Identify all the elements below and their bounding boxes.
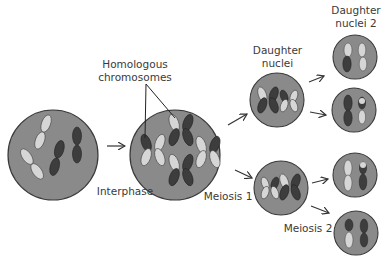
arrow-meiosis1-bottom <box>235 170 252 178</box>
label-daughter-nuclei: Daughter nuclei <box>250 44 305 70</box>
label-homologous-line2: chromosomes <box>98 71 172 84</box>
label-meiosis1: Meiosis 1 <box>202 190 254 203</box>
arrow-meiosis1-top <box>228 114 247 125</box>
daughter-nucleus-bottom <box>254 161 308 215</box>
daughter-nucleus-2c <box>333 153 377 197</box>
daughter-nucleus-2b <box>332 88 376 132</box>
meiosis-diagram: Homologous chromosomes Interphase Meiosi… <box>0 0 392 259</box>
label-interphase: Interphase <box>95 185 155 198</box>
label-meiosis2: Meiosis 2 <box>282 222 334 235</box>
arrow-meiosis2-4 <box>311 206 329 213</box>
label-daughter-line1: Daughter <box>250 44 305 57</box>
arrow-meiosis2-1 <box>309 76 324 82</box>
arrow-meiosis2-2 <box>310 112 326 115</box>
label-daughter-nuclei-2: Daughter nuclei 2 <box>328 4 384 30</box>
arrow-meiosis2-3 <box>312 179 328 183</box>
daughter-nucleus-top <box>250 73 304 127</box>
daughter-nucleus-2d <box>334 211 378 255</box>
label-homologous: Homologous chromosomes <box>98 58 172 84</box>
label-daughter-line2: nuclei <box>250 57 305 70</box>
daughter-nucleus-2a <box>333 35 377 79</box>
parent-cell <box>8 110 98 200</box>
label-homologous-line1: Homologous <box>98 58 172 71</box>
label-daughter2-line2: nuclei 2 <box>328 17 384 30</box>
label-daughter2-line1: Daughter <box>328 4 384 17</box>
